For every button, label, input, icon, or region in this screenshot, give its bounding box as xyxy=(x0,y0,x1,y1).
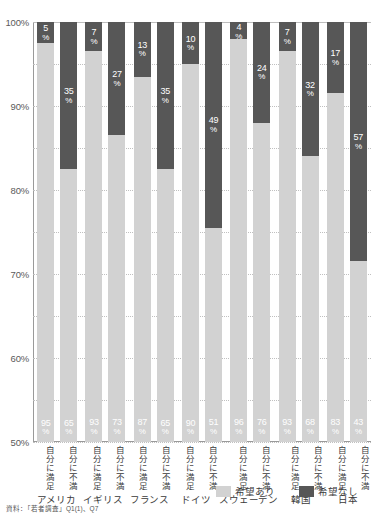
x-label-group: 自分に満足自分に不満アメリカ xyxy=(33,446,80,498)
bar-segment-hope[interactable]: 68% xyxy=(302,156,319,442)
bar-value-label: 96% xyxy=(230,418,247,436)
bar-value-label: 68% xyxy=(302,418,319,436)
y-axis-tick-100: 100% xyxy=(6,18,30,28)
x-label-pair: 自分に満足自分に不満 xyxy=(173,446,220,490)
bar-segment-nohope[interactable]: 7% xyxy=(85,22,102,51)
legend-swatch xyxy=(216,486,231,497)
stacked-bar[interactable]: 43%57% xyxy=(350,22,367,442)
x-axis-sublabel: 自分に満足 xyxy=(176,446,193,490)
x-axis-sublabel: 自分に不満 xyxy=(59,446,76,490)
stacked-bar[interactable]: 73%27% xyxy=(108,22,125,442)
bar-segment-hope[interactable]: 87% xyxy=(134,77,151,442)
x-axis-sublabel: 自分に不満 xyxy=(106,446,123,490)
bar-value-label: 7% xyxy=(279,28,296,46)
x-axis-country-label: ドイツ xyxy=(181,492,210,506)
bar-segment-nohope[interactable]: 10% xyxy=(182,22,199,64)
x-axis-sublabel: 自分に満足 xyxy=(129,446,146,490)
x-label-group: 自分に満足自分に不満イギリス xyxy=(80,446,127,498)
chart-legend: 希望あり希望なし xyxy=(216,484,358,498)
bar-segment-hope[interactable]: 83% xyxy=(327,93,344,442)
bar-segment-nohope[interactable]: 35% xyxy=(60,22,77,169)
x-label-pair: 自分に満足自分に不満 xyxy=(33,446,80,490)
stacked-bar[interactable]: 83%17% xyxy=(327,22,344,442)
bar-value-label: 24% xyxy=(253,64,270,82)
bar-group: 90%10%51%49% xyxy=(178,22,226,442)
bar-value-label: 10% xyxy=(182,35,199,53)
bar-segment-hope[interactable]: 96% xyxy=(230,39,247,442)
stacked-bar[interactable]: 96%4% xyxy=(230,22,247,442)
y-axis-tick-50: 50% xyxy=(11,438,29,448)
bar-segment-hope[interactable]: 43% xyxy=(350,261,367,442)
bar-group: 83%17%43%57% xyxy=(323,22,371,442)
bar-value-label: 90% xyxy=(182,419,199,437)
bar-value-label: 7% xyxy=(85,28,102,46)
bar-value-label: 17% xyxy=(327,49,344,67)
bar-segment-nohope[interactable]: 32% xyxy=(302,22,319,156)
bar-segment-nohope[interactable]: 24% xyxy=(253,22,270,123)
bar-segment-hope[interactable]: 65% xyxy=(60,169,77,442)
bar-segment-hope[interactable]: 73% xyxy=(108,135,125,442)
bar-value-label: 35% xyxy=(157,87,174,105)
bar-segment-nohope[interactable]: 27% xyxy=(108,22,125,135)
x-label-pair: 自分に満足自分に不満 xyxy=(80,446,127,490)
bar-segment-nohope[interactable]: 57% xyxy=(350,22,367,261)
bar-value-label: 4% xyxy=(230,23,247,41)
bar-segment-nohope[interactable]: 35% xyxy=(157,22,174,169)
bar-group: 96%4%76%24% xyxy=(226,22,274,442)
bar-value-label: 87% xyxy=(134,418,151,436)
bar-segment-hope[interactable]: 93% xyxy=(85,51,102,442)
bar-value-label: 65% xyxy=(60,419,77,437)
source-note: 資料：「若者調査」Q1(1)、Q7 xyxy=(6,503,98,513)
bar-value-label: 57% xyxy=(350,133,367,151)
bar-value-label: 43% xyxy=(350,418,367,436)
stacked-bar[interactable]: 65%35% xyxy=(60,22,77,442)
y-axis-tick-70: 70% xyxy=(11,270,29,280)
stacked-bar[interactable]: 87%13% xyxy=(134,22,151,442)
bar-segment-hope[interactable]: 76% xyxy=(253,123,270,442)
bar-value-label: 76% xyxy=(253,418,270,436)
plot-area: 0%10%20%30%40%50%60%70%80%90%100% 95%5%6… xyxy=(33,22,371,442)
stacked-bar[interactable]: 93%7% xyxy=(279,22,296,442)
bar-value-label: 65% xyxy=(157,419,174,437)
stacked-bar[interactable]: 65%35% xyxy=(157,22,174,442)
bar-group: 93%7%73%27% xyxy=(81,22,129,442)
stacked-bar[interactable]: 93%7% xyxy=(85,22,102,442)
x-label-pair: 自分に満足自分に不満 xyxy=(126,446,173,490)
legend-item[interactable]: 希望あり xyxy=(216,484,275,498)
x-axis-country-label: フランス xyxy=(130,492,169,506)
bar-segment-hope[interactable]: 95% xyxy=(37,43,54,442)
bar-segment-nohope[interactable]: 13% xyxy=(134,22,151,77)
bar-group: 87%13%65%35% xyxy=(130,22,178,442)
bar-segment-nohope[interactable]: 7% xyxy=(279,22,296,51)
bar-value-label: 93% xyxy=(279,418,296,436)
bar-segment-nohope[interactable]: 4% xyxy=(230,22,247,39)
stacked-bar[interactable]: 51%49% xyxy=(205,22,222,442)
x-axis-sublabel: 自分に不満 xyxy=(152,446,169,490)
stacked-bar[interactable]: 76%24% xyxy=(253,22,270,442)
bar-value-label: 95% xyxy=(37,419,54,437)
y-axis-tick-90: 90% xyxy=(11,102,29,112)
stacked-bar[interactable]: 68%32% xyxy=(302,22,319,442)
bar-value-label: 5% xyxy=(37,24,54,42)
bar-segment-hope[interactable]: 65% xyxy=(157,169,174,442)
bar-segment-nohope[interactable]: 17% xyxy=(327,22,344,93)
bar-value-label: 51% xyxy=(205,418,222,436)
bar-value-label: 13% xyxy=(134,41,151,59)
y-axis-tick-60: 60% xyxy=(11,354,29,364)
legend-label: 希望あり xyxy=(235,484,275,498)
bar-segment-hope[interactable]: 93% xyxy=(279,51,296,442)
bar-segment-hope[interactable]: 51% xyxy=(205,228,222,442)
bar-segment-nohope[interactable]: 5% xyxy=(37,22,54,43)
bar-groups: 95%5%65%35%93%7%73%27%87%13%65%35%90%10%… xyxy=(33,22,371,442)
stacked-bar[interactable]: 95%5% xyxy=(37,22,54,442)
x-label-group: 自分に満足自分に不満フランス xyxy=(126,446,173,498)
bar-segment-nohope[interactable]: 49% xyxy=(205,22,222,228)
x-axis-sublabel: 自分に不満 xyxy=(199,446,216,490)
bar-group: 93%7%68%32% xyxy=(274,22,322,442)
bar-value-label: 73% xyxy=(108,418,125,436)
stacked-bar[interactable]: 90%10% xyxy=(182,22,199,442)
bar-segment-hope[interactable]: 90% xyxy=(182,64,199,442)
legend-item[interactable]: 希望なし xyxy=(299,484,358,498)
bar-value-label: 35% xyxy=(60,87,77,105)
x-label-group: 自分に満足自分に不満ドイツ xyxy=(173,446,220,498)
